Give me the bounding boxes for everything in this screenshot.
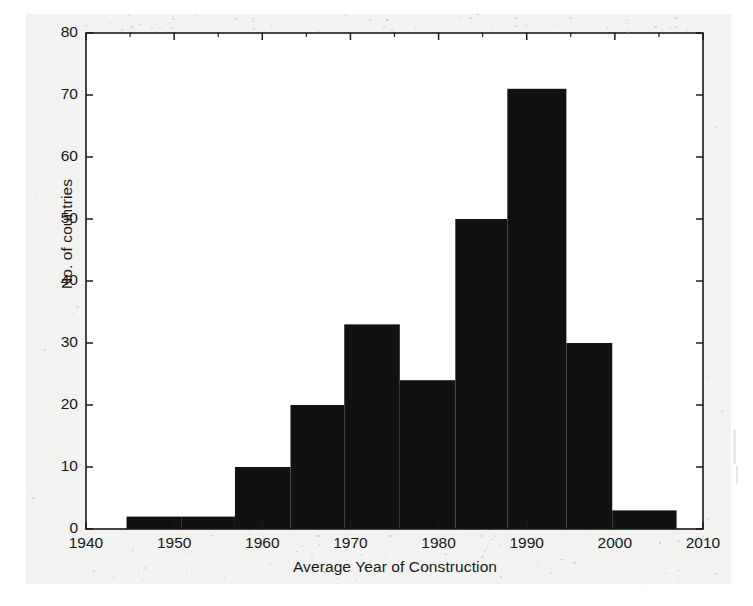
scan-speck	[383, 26, 385, 28]
histogram-bar	[290, 405, 344, 529]
scan-speck	[724, 525, 725, 526]
scan-speck	[575, 577, 576, 579]
scan-speck	[389, 535, 392, 537]
scan-speck	[589, 535, 590, 536]
scan-speck	[42, 366, 43, 368]
scan-speck	[260, 18, 261, 19]
scan-speck	[386, 19, 389, 21]
scan-speck	[669, 28, 672, 29]
scan-speck	[185, 553, 188, 554]
y-tick-label: 10	[20, 457, 78, 475]
scan-speck	[690, 576, 691, 577]
scan-speck	[391, 29, 394, 31]
scan-speck	[377, 22, 378, 24]
scan-speck	[481, 535, 483, 537]
scan-speck	[269, 564, 272, 565]
scan-speck	[415, 27, 416, 29]
scan-speck	[128, 15, 130, 16]
scan-speck	[573, 562, 576, 564]
x-tick-label: 2010	[669, 534, 737, 552]
x-axis-label: Average Year of Construction	[86, 558, 704, 576]
scan-speck	[714, 573, 717, 574]
scan-speck	[528, 29, 529, 30]
scan-speck	[285, 27, 286, 29]
scan-speck	[296, 551, 298, 552]
y-tick-label: 30	[20, 333, 78, 351]
figure-canvas: No. of countries Average Year of Constru…	[0, 0, 753, 606]
scan-speck	[514, 26, 517, 27]
scan-speck	[476, 14, 479, 15]
scan-speck	[675, 17, 678, 19]
scan-speck	[297, 553, 298, 554]
scan-speck	[626, 31, 629, 33]
scan-speck	[172, 16, 174, 17]
scan-speck	[703, 541, 705, 542]
x-tick-label: 1990	[493, 534, 561, 552]
scan-speck	[54, 543, 55, 544]
scan-speck	[646, 583, 647, 585]
histogram-bar	[344, 324, 400, 529]
scan-speck	[143, 567, 146, 569]
scan-speck	[524, 31, 525, 32]
x-tick-label: 1960	[228, 534, 296, 552]
scan-speck	[625, 20, 628, 21]
histogram-bar	[612, 510, 676, 529]
scan-speck	[248, 534, 251, 535]
scan-edge-mark	[733, 430, 736, 464]
scan-speck	[337, 22, 338, 23]
scan-edge-mark	[736, 466, 738, 484]
scan-speck	[317, 535, 320, 537]
scan-speck	[458, 16, 460, 18]
scan-speck	[214, 559, 215, 560]
histogram-bar	[455, 219, 507, 529]
scan-speck	[400, 28, 401, 29]
scan-speck	[715, 127, 717, 128]
y-tick-label: 20	[20, 395, 78, 413]
scan-speck	[150, 27, 153, 28]
scan-speck	[171, 26, 172, 28]
scan-speck	[355, 580, 356, 582]
y-tick-label: 80	[20, 23, 78, 41]
scan-speck	[86, 18, 89, 19]
scan-speck	[113, 576, 114, 578]
scan-speck	[601, 540, 602, 541]
scan-speck	[560, 559, 563, 560]
scan-speck	[396, 18, 398, 19]
scan-speck	[319, 544, 320, 546]
scan-speck	[550, 572, 552, 574]
scan-speck	[311, 557, 313, 559]
scan-speck	[236, 18, 237, 19]
scan-speck	[165, 574, 167, 575]
scan-speck	[78, 409, 79, 410]
scan-speck	[32, 497, 35, 499]
scan-speck	[93, 570, 95, 572]
scan-speck	[721, 410, 724, 412]
scan-speck	[449, 548, 452, 549]
scan-speck	[607, 27, 608, 29]
scan-speck	[142, 579, 144, 581]
scan-speck	[121, 29, 124, 31]
scan-speck	[706, 376, 708, 377]
scan-speck	[131, 551, 134, 552]
scan-speck	[444, 554, 447, 555]
y-tick-label: 70	[20, 85, 78, 103]
scan-speck	[44, 349, 46, 351]
scan-speck	[375, 578, 377, 579]
scan-speck	[491, 24, 492, 25]
scan-speck	[334, 581, 335, 582]
scan-speck	[75, 433, 78, 434]
scan-speck	[35, 197, 36, 199]
scan-speck	[182, 31, 183, 33]
scan-speck	[73, 312, 74, 314]
scan-speck	[186, 573, 187, 575]
scan-speck	[224, 577, 225, 579]
scan-speck	[422, 571, 425, 572]
scan-speck	[139, 24, 142, 25]
scan-speck	[654, 26, 657, 28]
scan-speck	[542, 14, 544, 15]
scan-speck	[465, 578, 467, 579]
scan-speck	[575, 538, 577, 539]
scan-speck	[81, 91, 82, 92]
scan-speck	[336, 556, 337, 557]
scan-speck	[569, 17, 572, 19]
